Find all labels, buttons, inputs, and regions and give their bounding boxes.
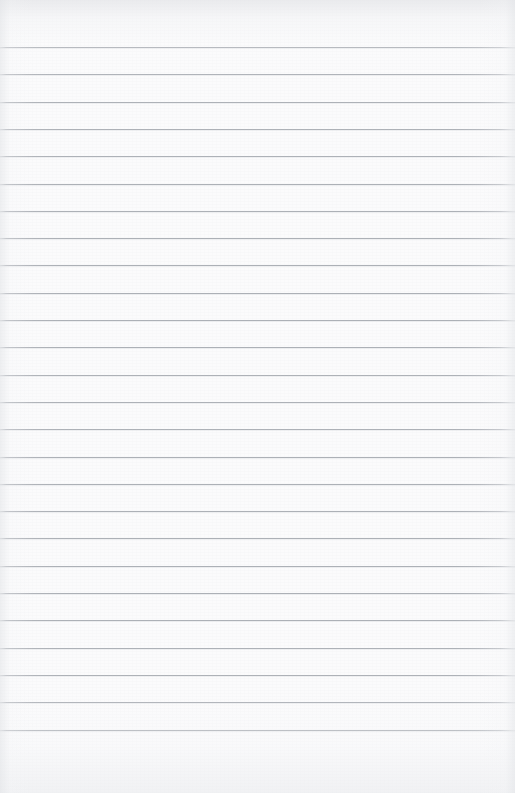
rule-line — [0, 511, 515, 512]
rule-line — [0, 593, 515, 594]
rule-line — [0, 320, 515, 321]
rule-line — [0, 484, 515, 485]
rule-line — [0, 156, 515, 157]
rule-line — [0, 702, 515, 703]
rule-line — [0, 730, 515, 731]
rule-line — [0, 238, 515, 239]
rule-line — [0, 102, 515, 103]
rule-line — [0, 184, 515, 185]
rule-line — [0, 648, 515, 649]
rule-line — [0, 375, 515, 376]
rule-line — [0, 538, 515, 539]
rule-line — [0, 429, 515, 430]
rule-line — [0, 265, 515, 266]
rule-line — [0, 347, 515, 348]
rule-line — [0, 74, 515, 75]
rule-line — [0, 129, 515, 130]
rule-line — [0, 457, 515, 458]
rule-line — [0, 211, 515, 212]
rule-line — [0, 47, 515, 48]
rule-line — [0, 675, 515, 676]
ruled-lines-layer — [0, 0, 515, 793]
rule-line — [0, 566, 515, 567]
rule-line — [0, 293, 515, 294]
rule-line — [0, 620, 515, 621]
scanned-page — [0, 0, 515, 793]
rule-line — [0, 402, 515, 403]
